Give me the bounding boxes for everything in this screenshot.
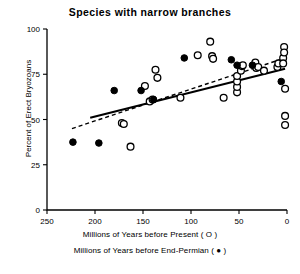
svg-text:25: 25 [31,161,40,170]
svg-text:75: 75 [31,70,40,79]
svg-text:150: 150 [136,217,150,226]
svg-text:250: 250 [40,217,54,226]
scatter-plot: 0255075100250200150100500 [0,0,300,274]
data-points-present [118,38,288,150]
svg-text:0: 0 [285,217,290,226]
data-points-end-permian [70,55,285,147]
svg-text:100: 100 [184,217,198,226]
svg-text:100: 100 [27,25,41,34]
chart-figure: Species with narrow branches Percent of … [0,0,300,274]
axis-tick-labels: 0255075100250200150100500 [27,25,290,226]
svg-text:200: 200 [88,217,102,226]
svg-text:0: 0 [36,206,41,215]
axis-ticks [43,29,287,214]
svg-text:50: 50 [31,116,40,125]
svg-text:50: 50 [235,217,244,226]
axis-frame [47,29,287,210]
